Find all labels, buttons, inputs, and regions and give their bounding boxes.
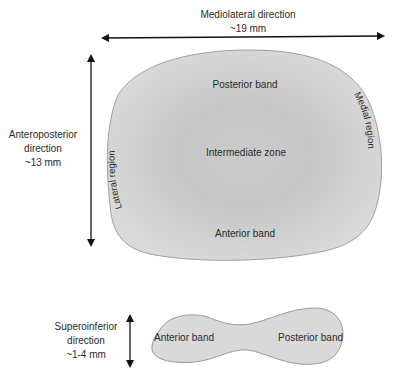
mediolateral-size-text: ~19 mm <box>178 23 318 35</box>
superoinferior-line1: Superoinferior <box>48 321 124 333</box>
mediolateral-direction-text: Mediolateral direction <box>178 9 318 21</box>
anteroposterior-line2: direction <box>0 143 86 155</box>
side-posterior-band-label: Posterior band <box>278 332 348 344</box>
mediolateral-label: Mediolateral direction ~19 mm <box>178 9 318 35</box>
anterior-band-label: Anterior band <box>205 228 285 240</box>
posterior-band-label: Posterior band <box>205 79 285 91</box>
superoinferior-size: ~1-4 mm <box>48 349 124 361</box>
side-anterior-band-label: Anterior band <box>154 332 218 344</box>
anteroposterior-label: Anteroposterior direction ~13 mm <box>0 129 86 169</box>
disc-diagram: Lateral region Medial region Mediolatera… <box>0 0 398 388</box>
mediolateral-arrow <box>103 36 383 38</box>
intermediate-zone-label: Intermediate zone <box>196 147 296 159</box>
anteroposterior-line1: Anteroposterior <box>0 129 86 141</box>
anteroposterior-size: ~13 mm <box>0 157 86 169</box>
superoinferior-line2: direction <box>48 335 124 347</box>
superoinferior-label: Superoinferior direction ~1-4 mm <box>48 321 124 361</box>
